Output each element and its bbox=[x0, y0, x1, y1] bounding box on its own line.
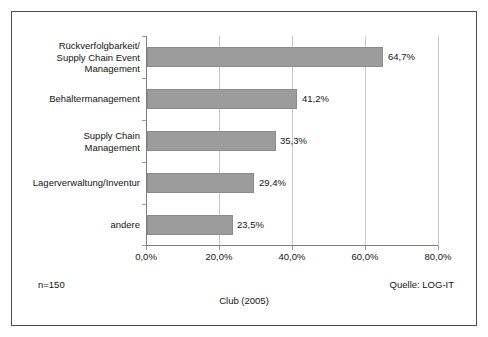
plot-area: Rückverfolgbarkeit/ Supply Chain Event M… bbox=[146, 36, 438, 246]
x-tick-60 bbox=[365, 246, 366, 250]
source-note-line2: Club (2005) bbox=[219, 295, 269, 307]
bar-value-label: 64,7% bbox=[388, 52, 415, 62]
category-label: Behältermanagement bbox=[49, 93, 140, 105]
x-tick-label: 0,0% bbox=[135, 252, 157, 262]
category-label-line1: Lagerverwaltung/Inventur bbox=[33, 177, 140, 189]
bar-value-label: 23,5% bbox=[237, 220, 264, 230]
category-label-line3: Management bbox=[57, 63, 140, 75]
x-tick-40 bbox=[292, 246, 293, 250]
category-label: Supply Chain Management bbox=[83, 130, 140, 153]
category-label-line2: Supply Chain Event bbox=[57, 51, 140, 63]
x-tick-20 bbox=[219, 246, 220, 250]
bar-value-label: 35,3% bbox=[280, 136, 307, 146]
source-note-line1: Quelle: LOG-IT bbox=[390, 279, 454, 291]
category-label: Rückverfolgbarkeit/ Supply Chain Event M… bbox=[57, 40, 140, 75]
chart-figure: Rückverfolgbarkeit/ Supply Chain Event M… bbox=[11, 11, 477, 326]
bar-value-label: 29,4% bbox=[259, 178, 286, 188]
bar[interactable] bbox=[147, 173, 254, 193]
category-label-line1: Rückverfolgbarkeit/ bbox=[57, 40, 140, 52]
x-tick-label: 80,0% bbox=[425, 252, 452, 262]
category-label: andere bbox=[110, 219, 140, 231]
x-tick-80 bbox=[438, 246, 439, 250]
x-tick-0 bbox=[146, 246, 147, 250]
category-tick-3 bbox=[142, 162, 146, 163]
bar[interactable] bbox=[147, 215, 233, 235]
x-tick-label: 20,0% bbox=[206, 252, 233, 262]
bar-value-label: 41,2% bbox=[302, 94, 329, 104]
category-label: Lagerverwaltung/Inventur bbox=[33, 177, 140, 189]
category-tick-4 bbox=[142, 204, 146, 205]
x-tick-label: 60,0% bbox=[352, 252, 379, 262]
category-tick-2 bbox=[142, 120, 146, 121]
x-tick-label: 40,0% bbox=[279, 252, 306, 262]
category-label-line1: andere bbox=[110, 219, 140, 231]
category-tick-1 bbox=[142, 78, 146, 79]
bar[interactable] bbox=[147, 47, 383, 67]
sample-size-note: n=150 bbox=[38, 279, 65, 291]
category-label-line2: Management bbox=[83, 141, 140, 153]
bar[interactable] bbox=[147, 131, 276, 151]
gridline-60 bbox=[365, 36, 366, 246]
bar[interactable] bbox=[147, 89, 297, 109]
category-tick-0 bbox=[142, 36, 146, 37]
gridline-80 bbox=[438, 36, 439, 246]
category-label-line1: Behältermanagement bbox=[49, 93, 140, 105]
category-label-line1: Supply Chain bbox=[83, 130, 140, 142]
